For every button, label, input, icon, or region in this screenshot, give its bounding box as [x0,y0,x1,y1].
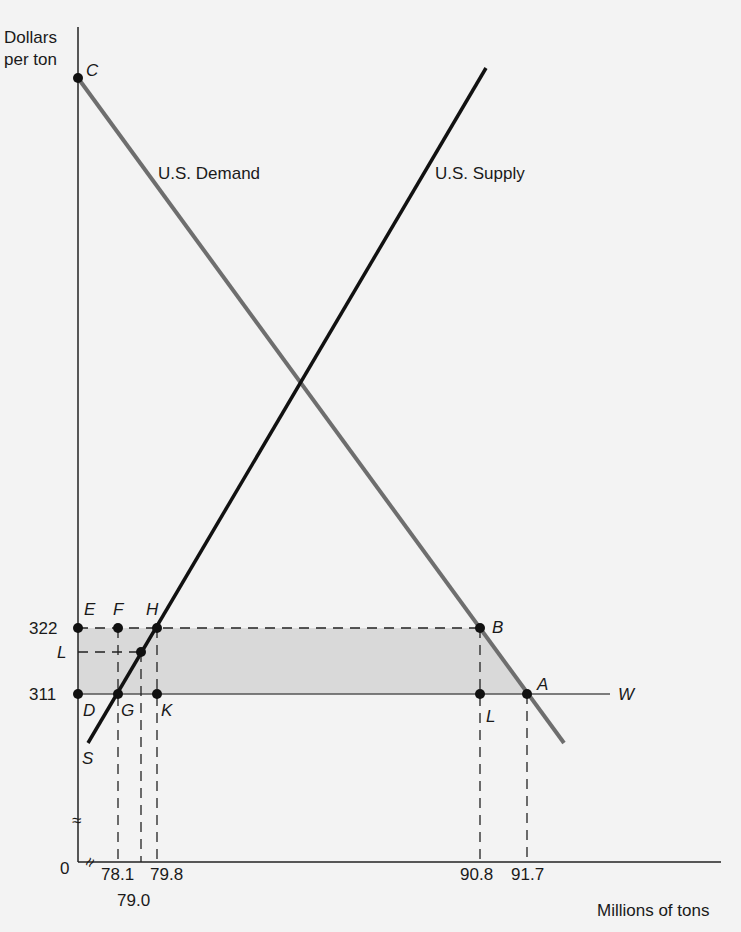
supply-label: U.S. Supply [435,164,525,183]
point-d-label: D [83,701,95,720]
shaded-area [78,628,527,694]
point-e-label: E [84,600,96,619]
point-a-label: A [536,675,548,694]
origin-label: 0 [60,859,69,878]
demand-label: U.S. Demand [158,164,260,183]
x-axis-break: ≈ [79,854,100,872]
y-tick-L: L [57,643,66,662]
point-h-label: H [146,600,159,619]
point-l-label: L [486,707,495,726]
point-s-label: S [82,749,94,768]
x-tick-79-0: 79.0 [117,891,150,910]
y-axis-title-line2: per ton [4,50,57,69]
chart: ≈ ≈ Dollars per ton Millions of tons U.S… [0,0,741,932]
point-f-label: F [113,600,125,619]
x-tick-78-1: 78.1 [101,865,134,884]
point-c-label: C [86,61,99,80]
x-axis-title: Millions of tons [597,901,709,920]
y-axis-title-line1: Dollars [4,28,57,47]
x-tick-91-7: 91.7 [511,865,544,884]
y-tick-311: 311 [29,685,56,704]
point-k-label: K [161,701,173,720]
point-b-label: B [492,618,503,637]
x-tick-79-8: 79.8 [150,865,183,884]
point-g-label: G [121,701,134,720]
y-tick-322: 322 [29,619,57,638]
point-w-label: W [618,685,636,704]
x-tick-90-8: 90.8 [460,865,493,884]
y-axis-break: ≈ [72,811,81,830]
